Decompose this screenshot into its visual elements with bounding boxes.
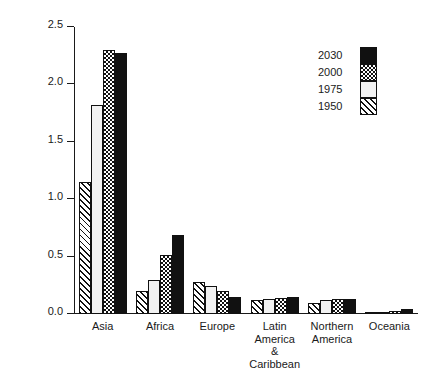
legend-row-2030: 2030	[318, 47, 377, 64]
legend-label-2030: 2030	[318, 47, 354, 64]
legend-row-1950: 1950	[318, 98, 377, 115]
x-axis-label: Latin America & Caribbean	[246, 320, 303, 370]
y-tick-label-0: 0.0	[48, 305, 63, 317]
bar	[136, 291, 148, 314]
legend-swatch-2030-icon	[360, 47, 377, 64]
y-tick-0: 0.0	[67, 313, 74, 314]
legend-row-2000: 2000	[318, 64, 377, 81]
bar	[217, 291, 229, 314]
legend-swatch-1950-icon	[360, 98, 377, 115]
y-tick-3: 1.5	[67, 141, 74, 142]
y-tick-label-5: 2.5	[48, 18, 63, 30]
bar	[193, 282, 205, 314]
bar	[287, 297, 299, 314]
legend: 2030 2000 1975 1950	[318, 47, 377, 115]
bar	[229, 297, 241, 314]
bar	[320, 300, 332, 314]
bar	[115, 53, 127, 314]
y-axis-line	[74, 27, 75, 314]
y-tick-2: 1.0	[67, 198, 74, 199]
legend-label-1975: 1975	[318, 81, 354, 98]
bar	[79, 182, 91, 314]
bar	[263, 299, 275, 314]
bar	[365, 312, 377, 314]
y-tick-label-3: 1.5	[48, 133, 63, 145]
legend-swatch-1975-icon	[360, 81, 377, 98]
legend-label-1950: 1950	[318, 98, 354, 115]
bar	[160, 255, 172, 314]
bar	[148, 280, 160, 314]
bar	[377, 312, 389, 314]
bar	[275, 298, 287, 314]
legend-row-1975: 1975	[318, 81, 377, 98]
bar-group	[251, 27, 299, 314]
legend-label-2000: 2000	[318, 64, 354, 81]
legend-swatch-2000-icon	[360, 64, 377, 81]
x-axis-label: Oceania	[361, 320, 418, 333]
bar	[172, 235, 184, 314]
bar	[251, 300, 263, 314]
y-tick-1: 0.5	[67, 256, 74, 257]
y-tick-label-4: 2.0	[48, 75, 63, 87]
y-tick-4: 2.0	[67, 83, 74, 84]
bar	[389, 311, 401, 314]
bar	[205, 286, 217, 314]
y-tick-5: 2.5	[67, 26, 74, 27]
x-axis-label: Asia	[74, 320, 131, 333]
bar	[401, 309, 413, 314]
bar-group	[79, 27, 127, 314]
bar	[332, 299, 344, 314]
bar	[103, 50, 115, 314]
bar	[344, 299, 356, 314]
x-axis-label: Africa	[131, 320, 188, 333]
bar	[91, 105, 103, 314]
bar	[308, 303, 320, 314]
bar-group	[136, 27, 184, 314]
y-tick-label-2: 1.0	[48, 190, 63, 202]
x-axis-label: Europe	[189, 320, 246, 333]
x-axis-label: Northern America	[303, 320, 360, 345]
y-tick-label-1: 0.5	[48, 248, 63, 260]
bar-group	[193, 27, 241, 314]
